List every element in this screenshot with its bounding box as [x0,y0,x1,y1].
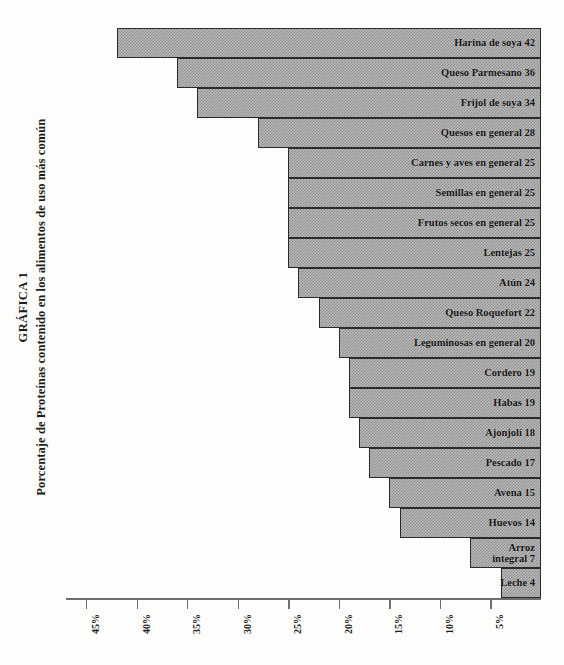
bar: Cordero 19 [349,358,541,388]
bar-value-label: Habas 19 [493,397,540,408]
bar-value-label: Leguminosas en general 20 [414,337,540,348]
bar-row: Frijol de soya 34 [197,88,541,118]
bar: Harina de soya 42 [117,28,541,58]
bar-value-label: Quesos en general 28 [441,127,540,138]
bar: Carnes y aves en general 25 [288,148,541,178]
axis-tick-label: 20% [343,614,354,634]
bar: Frutos secos en general 25 [288,208,541,238]
bar-row: Lentejas 25 [288,238,541,268]
bar: Lentejas 25 [288,238,541,268]
axis-tick-label: 15% [393,614,404,634]
bar-row: Queso Roquefort 22 [319,298,541,328]
bar-value-label: Lentejas 25 [483,247,540,258]
bar-row: Harina de soya 42 [117,28,541,58]
plot-area: Harina de soya 42Queso Parmesano 36Frijo… [66,28,541,598]
bar-value-label: Ajonjolí 18 [485,427,540,438]
bar: Queso Roquefort 22 [319,298,541,328]
bar-series: Harina de soya 42Queso Parmesano 36Frijo… [66,28,541,598]
axis-tick [440,598,441,609]
bar: Atún 24 [298,268,541,298]
axis-tick [288,598,289,609]
bar-row: Carnes y aves en general 25 [288,148,541,178]
bar-row: Pescado 17 [369,448,541,478]
axis-tick [187,598,188,609]
axis-tick-label: 35% [191,614,202,634]
bar-value-label: Arroz integral 7 [471,542,540,564]
chart-title-block: GRÁFICA 1 Porcentaje de Proteínas conten… [0,0,66,615]
bar-value-label: Frijol de soya 34 [461,97,540,108]
bar-value-label: Cordero 19 [484,367,540,378]
bar-value-label: Avena 15 [494,487,540,498]
bar: Queso Parmesano 36 [177,58,541,88]
axis-tick-label: 10% [444,614,455,634]
bar-value-label: Huevos 14 [489,517,540,528]
axis-tick-label: 45% [90,614,101,634]
chart-subtitle: Porcentaje de Proteínas contenido en los… [33,119,51,496]
bar-value-label: Carnes y aves en general 25 [411,157,540,168]
chart-title-rotated: GRÁFICA 1 Porcentaje de Proteínas conten… [15,119,51,496]
axis-tick [339,598,340,609]
bar-value-label: Frutos secos en general 25 [418,217,540,228]
axis-tick-label: 25% [292,614,303,634]
bar-row: Arroz integral 7 [470,538,541,568]
axis-tick [137,598,138,609]
bar-value-label: Semillas en general 25 [436,187,540,198]
bar-row: Frutos secos en general 25 [288,208,541,238]
axis-tick [238,598,239,609]
bar-value-label: Queso Parmesano 36 [441,67,540,78]
bar-row: Semillas en general 25 [288,178,541,208]
bar-row: Queso Parmesano 36 [177,58,541,88]
bar-value-label: Pescado 17 [486,457,540,468]
bar-value-label: Queso Roquefort 22 [445,307,540,318]
axis-tick-label: 5% [494,614,505,629]
bar-row: Atún 24 [298,268,541,298]
bar-row: Quesos en general 28 [258,118,541,148]
axis-tick-label: 30% [242,614,253,634]
bar: Avena 15 [389,478,541,508]
bar: Semillas en general 25 [288,178,541,208]
bar: Huevos 14 [400,508,541,538]
bar: Ajonjolí 18 [359,418,541,448]
axis-tick-label: 40% [141,614,152,634]
bar-value-label: Harina de soya 42 [454,37,540,48]
axis-tick [490,598,491,609]
x-axis-ticks: 45%40%35%30%25%20%15%10%5% [66,598,541,658]
bar-row: Leche 4 [501,568,541,598]
bar-row: Avena 15 [389,478,541,508]
bar-row: Ajonjolí 18 [359,418,541,448]
chart-page: GRÁFICA 1 Porcentaje de Proteínas conten… [0,0,564,665]
bar: Pescado 17 [369,448,541,478]
bar-row: Cordero 19 [349,358,541,388]
bar-value-label: Atún 24 [499,277,540,288]
bar: Habas 19 [349,388,541,418]
axis-tick [389,598,390,609]
bar: Arroz integral 7 [470,538,541,568]
bar-value-label: Leche 4 [500,577,540,588]
bar-row: Habas 19 [349,388,541,418]
bar: Frijol de soya 34 [197,88,541,118]
bar-row: Leguminosas en general 20 [339,328,541,358]
bar: Leguminosas en general 20 [339,328,541,358]
axis-tick [86,598,87,609]
page-title: GRÁFICA 1 [15,119,33,496]
bar-row: Huevos 14 [400,508,541,538]
bar: Leche 4 [501,568,541,598]
bar: Quesos en general 28 [258,118,541,148]
